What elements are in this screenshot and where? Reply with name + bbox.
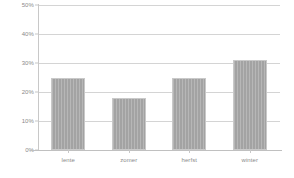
bar-chart: 0%10%20%30%40%50% lentezomerherfstwinter — [0, 0, 294, 178]
y-axis-labels: 0%10%20%30%40%50% — [0, 0, 34, 178]
x-axis-label-herfst: herfst — [181, 157, 197, 163]
bar-winter[interactable] — [233, 60, 267, 150]
y-axis-tick-label: 40% — [22, 31, 34, 37]
x-axis-label-zomer: zomer — [120, 157, 137, 163]
bar-herfst[interactable] — [172, 78, 206, 151]
x-axis-tick — [68, 150, 69, 153]
plot-area — [38, 5, 280, 150]
y-axis-tick-label: 30% — [22, 60, 34, 66]
x-axis-tick — [129, 150, 130, 153]
x-axis-label-lente: lente — [61, 157, 75, 163]
x-axis-label-winter: winter — [241, 157, 258, 163]
bar-lente[interactable] — [51, 78, 85, 151]
bar-zomer[interactable] — [112, 98, 146, 150]
y-axis-tick-label: 50% — [22, 2, 34, 8]
y-axis-tick-label: 20% — [22, 89, 34, 95]
y-axis-tick-label: 10% — [22, 118, 34, 124]
x-axis-tick — [189, 150, 190, 153]
x-axis-tick — [250, 150, 251, 153]
